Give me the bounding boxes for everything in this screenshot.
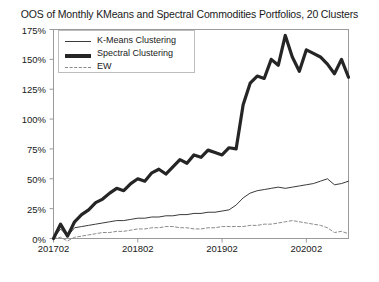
- y-tick-label: 25%: [2, 203, 46, 214]
- legend-label-kmeans: K-Means Clustering: [97, 36, 176, 45]
- legend-swatch-spectral-icon: [65, 48, 91, 59]
- y-tick-label: 175%: [2, 24, 46, 35]
- y-tick-label: 50%: [2, 173, 46, 184]
- chart-legend: K-Means Clustering Spectral Clustering E…: [58, 30, 195, 73]
- x-tick-label: 201702: [24, 243, 84, 254]
- series-line: [54, 179, 349, 239]
- legend-swatch-kmeans-icon: [65, 35, 91, 46]
- y-tick-marks: [50, 30, 54, 239]
- x-tick-label: 201802: [108, 243, 168, 254]
- legend-label-ew: EW: [97, 62, 112, 71]
- y-tick-label: 125%: [2, 84, 46, 95]
- legend-item-ew: EW: [65, 60, 112, 73]
- y-tick-label: 150%: [2, 54, 46, 65]
- chart-figure: OOS of Monthly KMeans and Spectral Commo…: [0, 0, 379, 282]
- legend-label-spectral: Spectral Clustering: [97, 49, 173, 58]
- y-tick-label: 100%: [2, 114, 46, 125]
- x-tick-label: 202002: [276, 243, 336, 254]
- y-tick-label: 75%: [2, 143, 46, 154]
- x-tick-marks: [54, 239, 307, 243]
- legend-item-kmeans: K-Means Clustering: [65, 34, 176, 47]
- legend-item-spectral: Spectral Clustering: [65, 47, 173, 60]
- legend-swatch-ew-icon: [65, 61, 91, 72]
- x-tick-label: 201902: [192, 243, 252, 254]
